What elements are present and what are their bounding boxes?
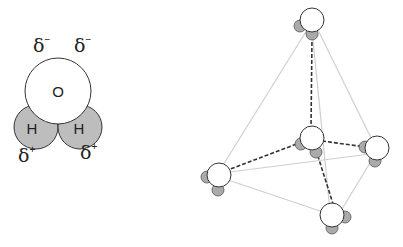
oxygen-label: O [52,83,64,100]
water-molecule-bottom [320,203,351,234]
hydrogen-right-label: H [74,120,85,137]
hydrogen-left-label: H [27,120,38,137]
partial-charge-top-right: δ− [74,34,91,56]
tetrahedron-edges [220,30,373,215]
water-molecule-left [201,163,231,196]
partial-charge-top-left: δ− [33,34,50,56]
water-molecule-top [294,8,324,40]
partial-charge-bottom-left: δ+ [18,144,35,166]
water-molecule-right [359,136,389,167]
partial-charge-bottom-right: δ+ [80,141,97,163]
tetrahedral-cluster [201,8,389,234]
water-molecule: O H H δ− δ− δ+ δ+ [14,34,102,166]
water-molecule-center [295,126,324,158]
hydrogen-bonds [225,36,366,207]
diagram-canvas: O H H δ− δ− δ+ δ+ [0,0,403,247]
